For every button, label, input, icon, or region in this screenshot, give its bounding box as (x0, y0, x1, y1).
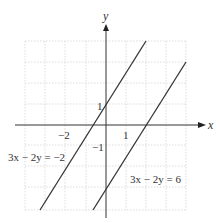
graph: x y −2 1 1 −1 3x − 2y = −2 3x − 2y = 6 (0, 0, 220, 223)
equation-label-2: 3x − 2y = 6 (130, 173, 181, 185)
x-arrow-icon (198, 122, 206, 128)
tick-label-1y: 1 (97, 100, 103, 112)
x-axis (15, 122, 206, 128)
tick-label-neg1: −1 (92, 141, 104, 153)
tick-label-neg2: −2 (58, 129, 70, 141)
line-eq2 (93, 62, 186, 210)
tick-label-1x: 1 (123, 129, 129, 141)
y-arrow-icon (103, 24, 109, 31)
x-axis-label: x (207, 118, 214, 132)
equation-label-1: 3x − 2y = −2 (8, 151, 65, 163)
y-axis-label: y (102, 9, 109, 23)
